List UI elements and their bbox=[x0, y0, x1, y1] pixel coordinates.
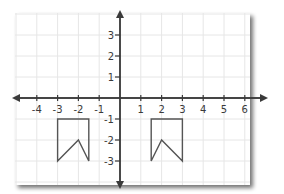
x-tick-label: -4 bbox=[32, 104, 42, 115]
y-tick-label: 3 bbox=[108, 30, 114, 41]
x-tick-label: 3 bbox=[179, 104, 185, 115]
x-tick-label: -3 bbox=[53, 104, 63, 115]
panel bbox=[15, 13, 250, 185]
x-tick-label: 1 bbox=[138, 104, 144, 115]
x-tick-label: 4 bbox=[200, 104, 206, 115]
y-tick-label: 1 bbox=[108, 72, 114, 83]
x-tick-label: -2 bbox=[73, 104, 83, 115]
y-tick-label: -3 bbox=[104, 156, 114, 167]
x-tick-label: -1 bbox=[94, 104, 104, 115]
coordinate-plane: -4-3-2-1123456 321-1-2-3 bbox=[0, 0, 284, 194]
y-tick-label: -1 bbox=[104, 114, 114, 125]
x-tick-label: 2 bbox=[158, 104, 164, 115]
y-tick-label: 2 bbox=[108, 51, 114, 62]
x-tick-label: 5 bbox=[221, 104, 227, 115]
coordinate-plane-figure: -4-3-2-1123456 321-1-2-3 bbox=[0, 0, 284, 194]
x-tick-label: 6 bbox=[242, 104, 248, 115]
y-tick-label: -2 bbox=[104, 135, 114, 146]
